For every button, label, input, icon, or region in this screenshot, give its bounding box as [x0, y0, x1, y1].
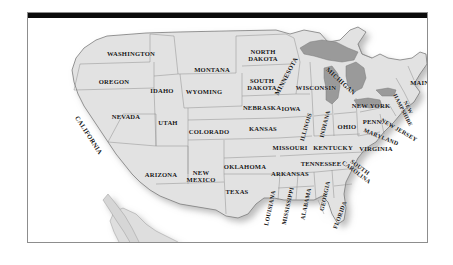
map-frame: WASHINGTONOREGONIDAHOMONTANANORTH DAKOTA… — [27, 12, 428, 243]
map-canvas: WASHINGTONOREGONIDAHOMONTANANORTH DAKOTA… — [28, 18, 428, 243]
us-map-svg — [28, 18, 428, 243]
page-root: WASHINGTONOREGONIDAHOMONTANANORTH DAKOTA… — [0, 0, 453, 265]
